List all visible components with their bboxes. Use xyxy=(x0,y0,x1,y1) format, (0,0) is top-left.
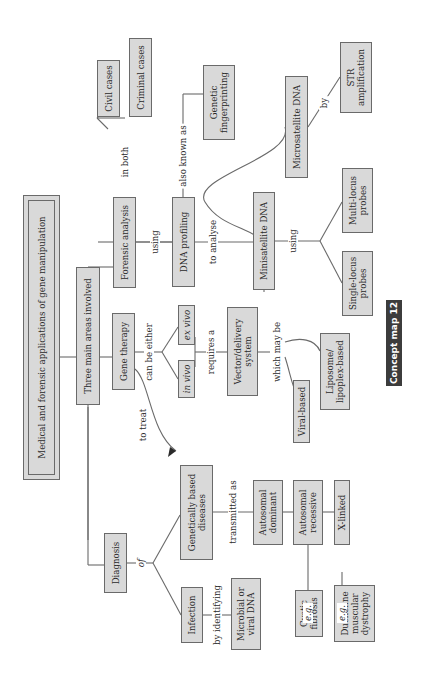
concept-map-badge: Concept map 12 xyxy=(386,300,402,386)
label-using-minisatellite: using xyxy=(288,227,298,255)
label-also-known-as: also known as xyxy=(178,123,188,188)
node-minisatellite-dna: Minisatellite DNA xyxy=(253,192,275,290)
node-microsatellite-dna: Microsatellite DNA xyxy=(285,76,308,178)
node-liposome-lipoplex-based: Liposome/ lipoplex-based xyxy=(320,333,350,410)
label-by: by xyxy=(319,96,329,110)
label-transmitted-as: transmitted as xyxy=(228,478,238,545)
node-multi-locus-probes: Multi-locus probes xyxy=(342,168,373,233)
node-vector-delivery-system: Vector/delivery system xyxy=(227,307,258,396)
concept-map-canvas: Medical and forensic applications of gen… xyxy=(0,0,421,697)
node-infection: Infection xyxy=(181,587,203,643)
node-gene-therapy: Gene therapy xyxy=(112,313,135,390)
label-using-forensic: using xyxy=(150,228,160,256)
label-requires-a: requires a xyxy=(206,328,216,376)
label-eg-cystic: e.g. xyxy=(303,603,313,623)
node-forensic-analysis: Forensic analysis xyxy=(113,197,136,288)
node-viral-based: Viral-based xyxy=(293,380,310,443)
title-node: Medical and forensic applications of gen… xyxy=(23,195,60,480)
label-in-both: in both xyxy=(120,145,130,180)
node-microbial-viral-dna: Microbial or viral DNA xyxy=(231,578,261,650)
node-diagnosis: Diagnosis xyxy=(104,533,127,593)
label-can-be-either: can be either xyxy=(144,321,154,383)
node-genetic-fingerprinting: Genetic fingerprinting xyxy=(203,65,235,140)
label-which-may-be: which may be xyxy=(272,320,282,384)
node-single-locus-probes: Single-locus probes xyxy=(342,251,373,316)
node-three-main-areas: Three main areas involved xyxy=(76,267,100,405)
node-civil-cases: Civil cases xyxy=(97,60,120,117)
label-by-identifying: by identifying xyxy=(212,583,222,647)
title-inner: Medical and forensic applications of gen… xyxy=(28,200,55,475)
label-to-analyse: to analyse xyxy=(208,218,218,266)
node-autosomal-recessive: Autosomal recessive xyxy=(293,480,323,545)
label-eg-duchenne: e.g. xyxy=(337,603,347,623)
node-x-linked: X-linked xyxy=(334,480,350,545)
node-genetically-based-diseases: Genetically based diseases xyxy=(180,465,213,560)
label-to-treat: to treat xyxy=(138,407,148,444)
node-criminal-cases: Criminal cases xyxy=(129,38,152,117)
node-dna-profiling: DNA profiling xyxy=(172,197,195,287)
node-autosomal-dominant: Autosomal dominant xyxy=(253,480,283,545)
node-in-vivo: in vivo xyxy=(178,360,195,398)
label-of: of xyxy=(136,557,146,569)
node-ex-vivo: ex vivo xyxy=(178,305,195,345)
node-str-amplification: STR amplification xyxy=(340,42,372,113)
